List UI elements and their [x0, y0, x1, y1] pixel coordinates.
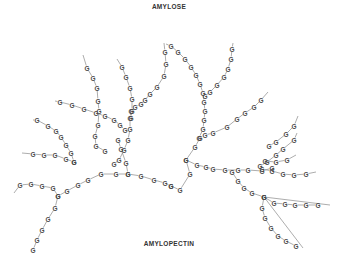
glycosidic-bond [289, 155, 296, 159]
glucose-unit: G [154, 84, 159, 91]
glucose-unit: G [202, 132, 207, 139]
glucose-unit: G [69, 102, 74, 109]
glucose-unit: G [81, 106, 86, 113]
glucose-unit: G [273, 152, 278, 159]
glucose-unit: G [261, 194, 266, 201]
glycosidic-bond [86, 110, 93, 112]
glucose-unit: G [271, 200, 276, 207]
chain-top-right-arm: GGGG [266, 116, 298, 150]
glucose-unit: G [125, 137, 130, 144]
glucose-unit: G [111, 161, 116, 168]
glucose-unit: G [58, 134, 63, 141]
chain-mid-left-branch: GGGGGGGGG [83, 55, 108, 155]
glucose-unit: G [75, 182, 80, 189]
glucose-unit: G [127, 85, 132, 92]
glucose-unit: G [224, 124, 229, 131]
glucose-unit: G [113, 171, 118, 178]
glucose-unit: G [102, 148, 107, 155]
glucose-unit: G [128, 115, 133, 122]
glucose-unit: G [242, 110, 247, 117]
glucose-unit: G [228, 56, 233, 63]
glucose-unit: G [292, 202, 297, 209]
glucose-unit: G [63, 142, 68, 149]
glucose-unit: G [280, 146, 285, 153]
glucose-unit: G [63, 156, 68, 163]
glucose-unit: G [280, 171, 285, 178]
glucose-unit: G [177, 187, 182, 194]
glucose-unit: G [202, 93, 207, 100]
glucose-unit: G [283, 238, 288, 245]
chain-trunk-right: GGGGGGGGGGGG [166, 43, 208, 142]
glucose-unit: G [116, 157, 121, 164]
glucose-unit: G [175, 49, 180, 56]
glucose-unit: G [55, 193, 60, 200]
chain-bottom-arc-right: GGGGGGGGGGG [55, 171, 173, 200]
glucose-unit: G [182, 56, 187, 63]
glucose-unit: G [303, 171, 308, 178]
glucose-unit: G [275, 233, 280, 240]
glucose-unit: G [68, 150, 73, 157]
glucose-unit: G [229, 169, 234, 176]
glucose-unit: G [269, 168, 274, 175]
glucose-unit: G [57, 99, 62, 106]
chain-left-mid-chain: GGGGGGGG [55, 99, 128, 134]
glucose-unit: G [293, 243, 298, 250]
glucose-unit: G [245, 167, 250, 174]
glycosidic-bond [254, 194, 261, 196]
glucose-unit: G [95, 98, 100, 105]
glucose-unit: G [118, 146, 123, 153]
glycosidic-bond [215, 128, 224, 132]
glucose-unit: G [291, 172, 296, 179]
glucose-unit: G [192, 144, 197, 151]
glucose-unit: G [194, 162, 199, 169]
glucose-unit: G [168, 183, 173, 190]
glucose-unit: G [123, 74, 128, 81]
chain-right-lower-side: GGGGGG [261, 194, 330, 209]
glucose-unit: G [123, 160, 128, 167]
glucose-unit: G [122, 127, 127, 134]
glucose-unit: G [315, 202, 320, 209]
glucose-unit: G [98, 171, 103, 178]
glucose-unit: G [94, 85, 99, 92]
glucose-unit: G [197, 81, 202, 88]
glucose-unit: G [283, 131, 288, 138]
glucose-unit: G [41, 152, 46, 159]
glucose-unit: G [183, 157, 188, 164]
glucose-unit: G [210, 130, 215, 137]
glycosidic-bond [74, 106, 81, 108]
chain-top-right-branch: GGGGGGG [202, 43, 234, 100]
glycosidic-bond [309, 172, 316, 173]
glucose-unit: G [251, 104, 256, 111]
glucose-unit: G [138, 101, 143, 108]
glucose-unit: G [90, 75, 95, 82]
glucose-unit: G [85, 177, 90, 184]
glucose-unit: G [266, 143, 271, 150]
glucose-unit: G [95, 122, 100, 129]
glucose-unit: G [273, 159, 278, 166]
glucose-unit: G [188, 64, 193, 71]
glucose-unit: G [45, 123, 50, 130]
chain-right-arm: GGG [262, 155, 296, 166]
glucose-unit: G [45, 216, 50, 223]
glucose-unit: G [30, 151, 35, 158]
glucose-unit: G [71, 159, 76, 166]
glucose-unit: G [151, 177, 156, 184]
chain-upper-right-mid: GGGGGGG [202, 92, 268, 139]
glucose-unit: G [303, 202, 308, 209]
glucose-unit: G [125, 171, 130, 178]
glucose-unit: G [50, 185, 55, 192]
glucose-unit: G [111, 117, 116, 124]
glucose-unit: G [235, 167, 240, 174]
glucose-unit: G [273, 139, 278, 146]
glucose-chain-diagram: GGGGGGGGGGGGGGGGGGGGGGGGGGGGGGGGGGGGGGGG… [0, 0, 338, 261]
glucose-unit: G [284, 157, 289, 164]
glucose-unit: G [193, 72, 198, 79]
glucose-unit: G [291, 123, 296, 130]
glucose-unit: G [201, 99, 206, 106]
glucose-unit: G [258, 97, 263, 104]
glycosidic-bond [143, 177, 151, 179]
glucose-unit: G [202, 108, 207, 115]
glucose-unit: G [259, 166, 264, 173]
glucose-unit: G [203, 164, 208, 171]
glycosidic-bond [251, 170, 260, 171]
